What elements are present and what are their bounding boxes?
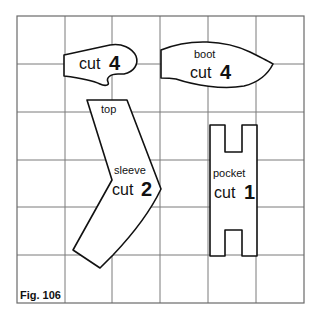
sleeve-piece: top sleeve cut 2 bbox=[73, 100, 161, 268]
pattern-diagram: cut 4 boot cut 4 top sleeve cut 2 pocket… bbox=[0, 0, 313, 320]
pocket-cut-count: 1 bbox=[244, 181, 255, 203]
mitten-cut-label: cut bbox=[79, 55, 101, 72]
boot-name-label: boot bbox=[194, 48, 215, 60]
pocket-piece: pocket cut 1 bbox=[210, 125, 257, 256]
boot-cut-count: 4 bbox=[220, 61, 232, 83]
sleeve-cut-label: cut bbox=[112, 181, 134, 198]
pocket-cut-label: cut bbox=[214, 184, 236, 201]
sleeve-name-label: sleeve bbox=[114, 164, 146, 176]
sleeve-cut-count: 2 bbox=[141, 178, 152, 200]
pocket-name-label: pocket bbox=[213, 167, 245, 179]
mitten-piece: cut 4 bbox=[64, 45, 137, 86]
mitten-cut-count: 4 bbox=[109, 52, 121, 74]
figure-caption: Fig. 106 bbox=[20, 289, 61, 301]
boot-cut-label: cut bbox=[190, 64, 212, 81]
sleeve-top-label: top bbox=[101, 103, 116, 115]
